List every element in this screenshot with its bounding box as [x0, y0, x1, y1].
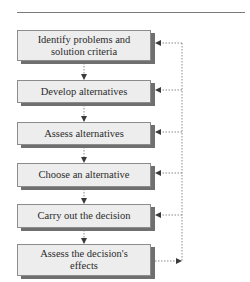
step-label: Develop alternatives	[41, 86, 128, 98]
step-carry-out-decision: Carry out the decision	[17, 204, 151, 228]
step-label: Carry out the decision	[37, 210, 130, 222]
step-assess-effects: Assess the decision's effects	[17, 244, 151, 276]
step-assess-alternatives: Assess alternatives	[17, 122, 151, 145]
step-label: Identify problems and solution criteria	[22, 34, 146, 58]
step-develop-alternatives: Develop alternatives	[17, 80, 151, 103]
header-rule	[17, 12, 245, 13]
step-label: Assess the decision's effects	[40, 248, 128, 272]
step-label: Choose an alternative	[39, 169, 130, 181]
step-identify-problems: Identify problems and solution criteria	[17, 30, 151, 61]
step-choose-alternative: Choose an alternative	[17, 163, 151, 187]
step-label: Assess alternatives	[44, 128, 124, 140]
